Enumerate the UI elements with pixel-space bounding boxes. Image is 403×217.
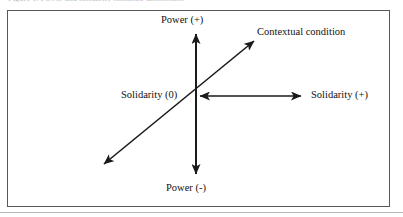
figure-caption-sliver: Figure 1. Power and solidarity semantic … — [8, 0, 338, 2]
label-solidarity-zero: Solidarity (0) — [121, 89, 177, 101]
label-solidarity-positive: Solidarity (+) — [311, 89, 368, 101]
bottom-divider — [0, 212, 403, 213]
label-power-positive: Power (+) — [161, 14, 203, 26]
label-power-negative: Power (-) — [166, 182, 206, 194]
figure-frame — [7, 10, 390, 207]
figure-page: Figure 1. Power and solidarity semantic … — [0, 0, 403, 217]
label-contextual-condition: Contextual condition — [257, 26, 345, 38]
